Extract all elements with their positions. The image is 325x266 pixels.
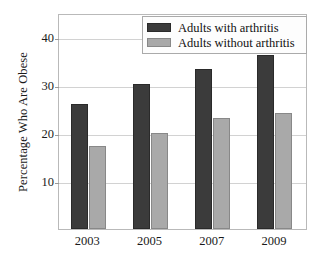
bar-chart: Percentage Who Are Obese 10203040 200320… <box>0 0 325 266</box>
legend-item-label: Adults without arthritis <box>178 36 295 50</box>
y-axis-tick-label: 40 <box>30 31 54 46</box>
y-axis-tick-label: 20 <box>30 127 54 142</box>
y-axis-tick-label: 30 <box>30 79 54 94</box>
bar-2009-series1 <box>257 55 274 229</box>
x-axis-tick-label: 2005 <box>124 234 174 249</box>
x-axis-tick-label: 2009 <box>249 234 299 249</box>
x-axis-tick-label: 2007 <box>187 234 237 249</box>
bar-2009-series2 <box>275 113 292 229</box>
light-swatch-icon <box>147 38 171 47</box>
y-axis-tick-labels: 10203040 <box>30 14 54 230</box>
legend-item: Adults with arthritis <box>147 20 302 35</box>
legend-item: Adults without arthritis <box>147 35 302 50</box>
bar-2005-series1 <box>133 84 150 229</box>
x-axis-tick-labels: 2003200520072009 <box>58 234 307 254</box>
x-axis-tick-label: 2003 <box>62 234 112 249</box>
dark-swatch-icon <box>147 23 171 32</box>
bar-2007-series1 <box>195 69 212 229</box>
legend-item-label: Adults with arthritis <box>178 21 279 35</box>
bar-2007-series2 <box>213 118 230 229</box>
bar-2003-series2 <box>89 146 106 229</box>
chart-legend: Adults with arthritisAdults without arth… <box>142 16 307 54</box>
bar-2005-series2 <box>151 133 168 229</box>
y-axis-tick-label: 10 <box>30 175 54 190</box>
bar-2003-series1 <box>71 104 88 229</box>
